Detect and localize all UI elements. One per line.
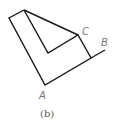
- diagram-canvas: C B A (b): [0, 0, 134, 123]
- extension-line-b: [91, 50, 105, 58]
- top-slant-edge: [24, 10, 78, 35]
- outer-edge: [9, 10, 91, 85]
- label-c: C: [82, 26, 89, 37]
- label-a: A: [38, 90, 46, 101]
- figure-caption: (b): [40, 108, 54, 119]
- l-shaped-solid-outline: [9, 10, 105, 85]
- label-b: B: [101, 37, 108, 48]
